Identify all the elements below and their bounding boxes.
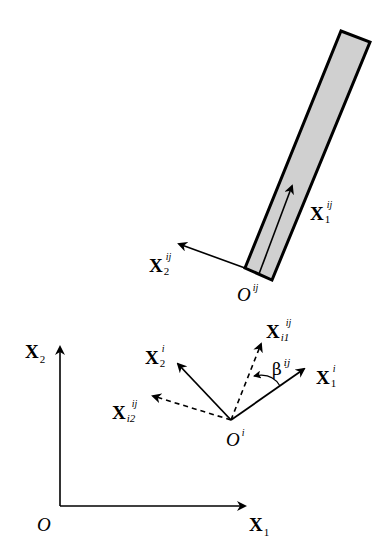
body-x2-axis-arrow — [179, 244, 245, 268]
body-x2-label: X2ij — [149, 256, 177, 275]
joint-origin-label: Oi — [226, 428, 245, 449]
kinematic-frames-diagram — [0, 0, 381, 554]
body-origin-label: Oij — [237, 283, 258, 304]
joint-x1-label: X1i — [316, 368, 344, 387]
beta-angle-label: βij — [272, 358, 290, 378]
global-frame — [60, 347, 245, 506]
link-bar-shape — [245, 31, 370, 280]
joint-xi2-label: Xi2ij — [112, 403, 144, 422]
joint-frame — [153, 344, 304, 420]
global-origin-label: O — [37, 515, 51, 534]
joint-x2-label: X2i — [145, 348, 173, 367]
global-x1-label: X1 — [249, 515, 269, 538]
joint-xi1-label: Xi1ij — [266, 322, 298, 341]
body-x1-label: X1ij — [310, 204, 338, 223]
joint-x1-axis-arrow — [231, 369, 304, 420]
global-x2-label: X2 — [25, 342, 45, 365]
link-bar — [245, 31, 370, 280]
